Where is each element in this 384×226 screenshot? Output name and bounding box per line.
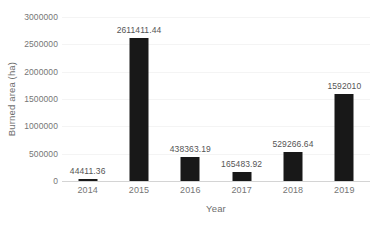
bar[interactable] bbox=[78, 179, 97, 182]
bar[interactable] bbox=[283, 152, 302, 181]
bar-slot: 438363.19 bbox=[165, 17, 216, 181]
bar[interactable] bbox=[232, 172, 251, 181]
x-axis-tick-label: 2014 bbox=[62, 185, 113, 195]
y-axis-tick-label: 2500000 bbox=[0, 39, 58, 49]
bar-value-label: 438363.19 bbox=[170, 144, 211, 154]
bar-chart: Burned area (ha) 30000002500000200000015… bbox=[0, 0, 384, 226]
y-axis-tick-label: 3000000 bbox=[0, 12, 58, 22]
y-axis-tick-label: 1000000 bbox=[0, 121, 58, 131]
category-axis-line bbox=[62, 181, 370, 182]
bar-value-label: 1592010 bbox=[327, 81, 361, 91]
bar-value-label: 529266.64 bbox=[272, 139, 313, 149]
y-axis-tick-label: 2000000 bbox=[0, 67, 58, 77]
bar[interactable] bbox=[181, 157, 200, 181]
bars-layer: 44411.362611411.44438363.19165483.925292… bbox=[62, 17, 370, 181]
bar-slot: 2611411.44 bbox=[113, 17, 164, 181]
x-axis-tick-label: 2016 bbox=[165, 185, 216, 195]
x-axis-tick-labels: 201420152016201720182019 bbox=[62, 185, 370, 199]
bar-value-label: 165483.92 bbox=[221, 159, 262, 169]
bar-slot: 1592010 bbox=[319, 17, 370, 181]
x-axis-title: Year bbox=[62, 203, 370, 214]
bar-value-label: 2611411.44 bbox=[117, 25, 162, 35]
bar[interactable] bbox=[129, 38, 148, 181]
bar-slot: 529266.64 bbox=[267, 17, 318, 181]
x-axis-tick-label: 2019 bbox=[319, 185, 370, 195]
bar-slot: 44411.36 bbox=[62, 17, 113, 181]
bar-value-label: 44411.36 bbox=[70, 166, 106, 176]
bar[interactable] bbox=[335, 94, 354, 181]
y-axis-tick-label: 0 bbox=[0, 176, 58, 186]
y-axis-tick-label: 1500000 bbox=[0, 94, 58, 104]
x-axis-tick-label: 2017 bbox=[216, 185, 267, 195]
x-axis-tick-label: 2018 bbox=[267, 185, 318, 195]
y-axis-tick-label: 500000 bbox=[0, 149, 58, 159]
x-axis-tick-label: 2015 bbox=[113, 185, 164, 195]
y-axis-tick-labels: 3000000250000020000001500000100000050000… bbox=[0, 0, 58, 226]
bar-slot: 165483.92 bbox=[216, 17, 267, 181]
